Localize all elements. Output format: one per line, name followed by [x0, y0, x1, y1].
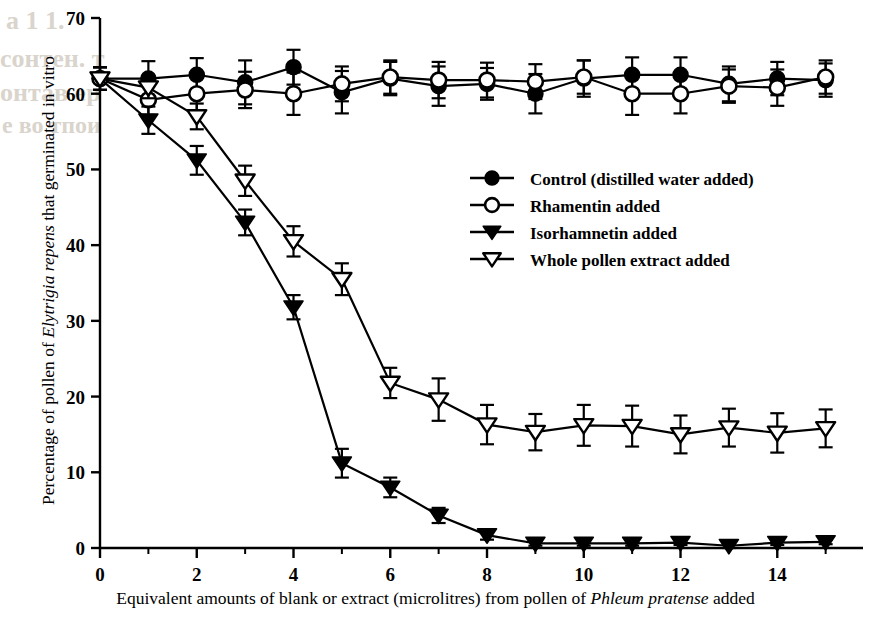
y-tick-label: 70: [66, 8, 85, 29]
data-point-filled-triangle-down: [429, 509, 448, 523]
y-axis-label: Percentage of pollen of Elytrigia repens…: [38, 21, 59, 541]
data-point-open-triangle-down: [429, 393, 448, 407]
data-point-open-circle: [625, 86, 640, 101]
data-point-open-circle: [818, 70, 833, 85]
data-point-open-triangle-down: [139, 81, 158, 95]
figure-page: a 1 1. сонтен. т онтав ер е во тпои 0102…: [0, 0, 871, 625]
x-tick-label: 14: [768, 564, 788, 585]
legend-item[interactable]: Isorhamnetin added: [470, 224, 677, 243]
data-point-open-triangle-down: [768, 427, 787, 441]
x-tick-label: 2: [192, 564, 202, 585]
legend-item[interactable]: Control (distilled water added): [470, 170, 754, 189]
x-axis-label: Equivalent amounts of blank or extract (…: [0, 588, 871, 609]
legend-item[interactable]: Whole pollen extract added: [470, 251, 730, 270]
y-axis-label-post: that germinated in vitro: [38, 56, 58, 225]
data-point-open-circle: [576, 70, 591, 85]
legend-label: Whole pollen extract added: [530, 251, 730, 270]
series-line: [100, 77, 826, 100]
data-point-filled-triangle-down: [332, 457, 351, 471]
data-series-layer: [91, 50, 836, 554]
chart-plot-area: 01020304050607002468101214 Control (dist…: [0, 0, 871, 625]
y-tick-label: 0: [76, 538, 86, 559]
x-axis-label-species: Phleum pratense: [591, 588, 709, 608]
data-point-filled-triangle-down: [381, 481, 400, 495]
data-point-open-circle: [286, 86, 301, 101]
data-point-open-triangle-down: [526, 426, 545, 440]
legend-label: Rhamentin added: [530, 197, 660, 216]
data-point-open-circle: [485, 198, 499, 212]
y-tick-label: 20: [66, 387, 85, 408]
x-axis-label-post: added: [709, 588, 755, 608]
y-axis-label-species: Elytrigia repens: [38, 225, 58, 338]
x-tick-label: 4: [289, 564, 299, 585]
data-point-open-triangle-down: [381, 377, 400, 391]
x-tick-label: 6: [386, 564, 396, 585]
data-point-open-triangle-down: [187, 110, 206, 124]
data-point-filled-circle: [485, 171, 499, 185]
data-point-filled-triangle-down: [719, 539, 738, 553]
x-tick-label: 12: [671, 564, 690, 585]
data-point-filled-triangle-down: [236, 216, 255, 230]
y-tick-label: 30: [66, 311, 85, 332]
x-tick-label: 10: [574, 564, 593, 585]
x-tick-label: 8: [482, 564, 492, 585]
data-point-filled-triangle-down: [187, 154, 206, 168]
data-point-open-circle: [480, 73, 495, 88]
data-point-open-triangle-down: [236, 175, 255, 189]
data-point-open-circle: [431, 73, 446, 88]
data-point-open-circle: [770, 80, 785, 95]
y-tick-label: 50: [66, 159, 85, 180]
data-point-open-triangle-down: [332, 273, 351, 287]
data-point-open-circle: [189, 86, 204, 101]
x-tick-label: 0: [95, 564, 105, 585]
x-axis-label-pre: Equivalent amounts of blank or extract (…: [116, 588, 590, 608]
legend-label: Isorhamnetin added: [530, 224, 677, 243]
data-point-open-triangle-down: [671, 428, 690, 442]
data-point-open-circle: [528, 74, 543, 89]
data-point-open-circle: [334, 76, 349, 91]
y-tick-label: 60: [66, 84, 85, 105]
chart-legend: Control (distilled water added)Rhamentin…: [470, 170, 754, 270]
series-open-circle: [93, 60, 834, 115]
legend-item[interactable]: Rhamentin added: [470, 197, 660, 216]
series-line: [100, 79, 826, 546]
legend-label: Control (distilled water added): [530, 170, 754, 189]
data-point-open-circle: [383, 70, 398, 85]
y-axis-label-pre: Percentage of pollen of: [38, 338, 58, 505]
data-point-filled-triangle-down: [284, 301, 303, 315]
data-point-open-circle: [673, 86, 688, 101]
data-point-open-circle: [721, 79, 736, 94]
y-tick-label: 40: [66, 235, 85, 256]
series-filled-triangle-down: [91, 67, 836, 554]
y-tick-label: 10: [66, 462, 85, 483]
data-point-open-circle: [238, 82, 253, 97]
